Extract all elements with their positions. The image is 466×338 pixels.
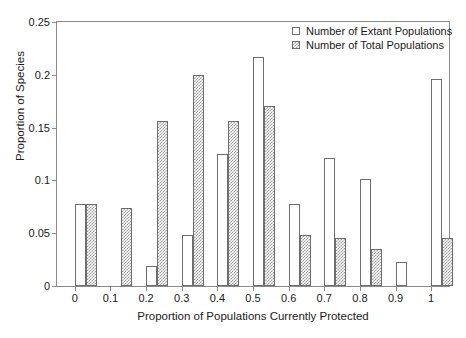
- bar-total-0.6: [300, 235, 311, 286]
- y-axis-tick-label: 0.2: [35, 69, 50, 80]
- y-axis-tick: [52, 180, 57, 181]
- y-axis-tick-label: 0.25: [29, 17, 50, 28]
- x-axis-tick: [182, 286, 183, 291]
- x-axis-tick: [324, 286, 325, 291]
- plot-area: 00.050.10.150.20.2500.10.20.30.40.50.60.…: [56, 21, 450, 287]
- bar-total-0.3: [193, 75, 204, 286]
- bar-extant-1: [431, 79, 442, 286]
- y-axis-title-wrapper: Proportion of Species: [0, 0, 1, 1]
- legend-label-total: Number of Total Populations: [306, 39, 444, 51]
- bar-extant-0.9: [396, 262, 407, 286]
- x-axis-tick-label: 0.4: [210, 293, 225, 304]
- y-axis-tick-label: 0: [44, 281, 50, 292]
- legend-swatch-total-icon: [292, 41, 300, 49]
- x-axis-tick: [253, 286, 254, 291]
- bar-total-0: [86, 204, 97, 286]
- x-axis-tick: [110, 286, 111, 291]
- bar-total-0.7: [335, 238, 346, 286]
- y-axis-tick: [52, 233, 57, 234]
- bar-extant-0.3: [182, 235, 193, 286]
- x-axis-tick: [217, 286, 218, 291]
- y-axis-tick-label: 0.15: [29, 122, 50, 133]
- bar-total-0.5: [264, 106, 275, 286]
- legend-swatch-extant-icon: [292, 27, 300, 35]
- bar-extant-0.5: [253, 57, 264, 286]
- x-axis-tick-label: 0.8: [352, 293, 367, 304]
- y-axis-title: Proportion of Species: [14, 6, 26, 206]
- x-axis-tick-label: 0.3: [174, 293, 189, 304]
- x-axis-tick: [289, 286, 290, 291]
- legend-item-total: Number of Total Populations: [292, 39, 452, 51]
- x-axis-tick-label: 0.5: [245, 293, 260, 304]
- bar-total-0.8: [371, 249, 382, 286]
- bar-extant-0.2: [146, 266, 157, 286]
- x-axis-tick-label: 0.1: [103, 293, 118, 304]
- x-axis-tick: [75, 286, 76, 291]
- y-axis-tick-label: 0.05: [29, 228, 50, 239]
- bars-layer: [57, 22, 449, 286]
- bar-extant-0.7: [324, 158, 335, 286]
- bar-extant-0.6: [289, 204, 300, 286]
- x-axis-tick: [146, 286, 147, 291]
- bar-extant-0.4: [217, 154, 228, 286]
- x-axis-tick-label: 0.2: [138, 293, 153, 304]
- x-axis-tick: [431, 286, 432, 291]
- bar-total-1: [442, 238, 453, 286]
- x-axis-tick-label: 0: [72, 293, 78, 304]
- x-axis-tick-label: 0.9: [388, 293, 403, 304]
- x-axis-tick: [360, 286, 361, 291]
- legend-item-extant: Number of Extant Populations: [292, 25, 452, 37]
- bar-chart-figure: 00.050.10.150.20.2500.10.20.30.40.50.60.…: [0, 0, 466, 338]
- bar-extant-0.8: [360, 179, 371, 286]
- x-axis-tick: [396, 286, 397, 291]
- bar-total-0.1: [121, 208, 132, 286]
- y-axis-tick: [52, 128, 57, 129]
- chart-legend: Number of Extant Populations Number of T…: [292, 25, 452, 51]
- x-axis-tick-label: 0.7: [317, 293, 332, 304]
- y-axis-tick: [52, 22, 57, 23]
- bar-extant-0: [75, 204, 86, 286]
- y-axis-tick: [52, 286, 57, 287]
- x-axis-title: Proportion of Populations Currently Prot…: [56, 310, 450, 322]
- legend-label-extant: Number of Extant Populations: [306, 25, 452, 37]
- y-axis-tick: [52, 75, 57, 76]
- x-axis-tick-label: 0.6: [281, 293, 296, 304]
- bar-total-0.4: [228, 121, 239, 286]
- y-axis-tick-label: 0.1: [35, 175, 50, 186]
- bar-total-0.2: [157, 121, 168, 286]
- x-axis-tick-label: 1: [428, 293, 434, 304]
